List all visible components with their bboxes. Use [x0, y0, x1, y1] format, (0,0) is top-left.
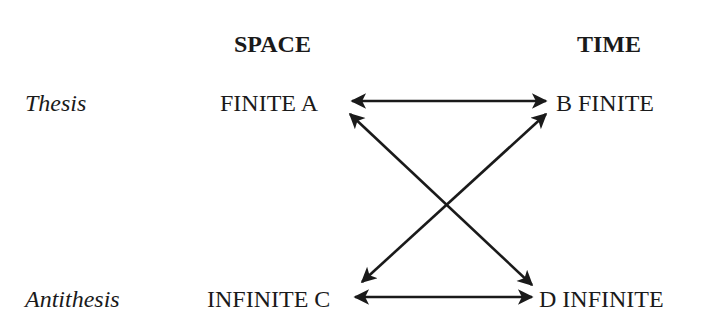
arrows-diagram	[0, 0, 701, 329]
arrow-b-c	[362, 114, 546, 282]
arrow-a-d	[350, 114, 532, 285]
